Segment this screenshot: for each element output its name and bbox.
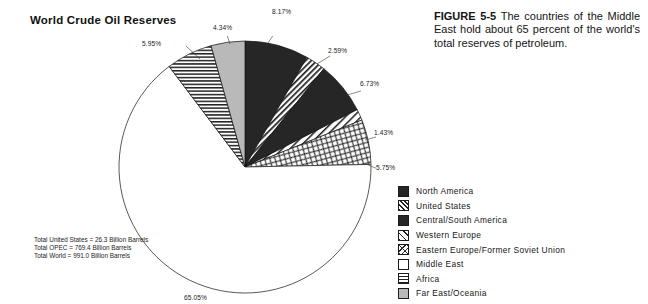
- horizontal-lines-icon: [398, 273, 409, 284]
- legend-label: Africa: [416, 274, 440, 284]
- legend-label: Western Europe: [416, 230, 481, 240]
- pie-slices: [119, 41, 371, 293]
- legend-item-middle-east: Middle East: [398, 257, 565, 272]
- wide-diagonal-hatch-icon: [398, 230, 409, 241]
- pie-label-central-south-america: 6.73%: [360, 80, 379, 87]
- page-title: World Crude Oil Reserves: [30, 14, 176, 26]
- legend-label: Far East/Oceania: [416, 288, 487, 298]
- chart-legend: North America United States Central/Sout…: [398, 184, 565, 301]
- legend-label: North America: [416, 186, 474, 196]
- figure-caption-label: FIGURE 5-5: [434, 10, 496, 22]
- legend-item-north-america: North America: [398, 184, 565, 199]
- legend-label: Eastern Europe/Former Soviet Union: [416, 245, 565, 255]
- legend-item-western-europe: Western Europe: [398, 228, 565, 243]
- pie-label-eastern-europe: 5.75%: [376, 164, 395, 171]
- pie-label-far-east-oceania: 4.34%: [213, 24, 232, 31]
- pie-chart: 8.17% 2.59% 6.73% 1.43% 5.75% 65.05% 5.9…: [114, 36, 376, 298]
- figure-caption: FIGURE 5-5 The countries of the Middle E…: [434, 10, 640, 50]
- pie-label-africa: 5.95%: [142, 40, 161, 47]
- legend-item-united-states: United States: [398, 199, 565, 214]
- footnote-line-world: Total World = 991.0 Billion Barrels: [34, 252, 148, 260]
- pie-label-middle-east: 65.05%: [184, 294, 207, 301]
- pie-label-united-states: 2.59%: [328, 47, 347, 54]
- gray-fill-icon: [398, 288, 409, 299]
- pie-chart-svg: [114, 36, 376, 298]
- solid-dark-icon: [398, 215, 409, 226]
- footnote-line-united-states: Total United States = 26.3 Billion Barre…: [34, 236, 148, 244]
- white-fill-icon: [398, 259, 409, 270]
- chart-footnote: Total United States = 26.3 Billion Barre…: [34, 236, 148, 261]
- legend-label: Central/South America: [416, 215, 507, 225]
- legend-label: United States: [416, 201, 471, 211]
- pie-label-western-europe: 1.43%: [374, 129, 393, 136]
- pie-label-north-america: 8.17%: [272, 8, 291, 15]
- dense-diagonal-hatch-icon: [398, 200, 409, 211]
- legend-label: Middle East: [416, 259, 464, 269]
- legend-item-eastern-europe: Eastern Europe/Former Soviet Union: [398, 242, 565, 257]
- solid-dark-icon: [398, 186, 409, 197]
- cross-texture-icon: [398, 244, 409, 255]
- legend-item-africa: Africa: [398, 272, 565, 287]
- legend-item-far-east-oceania: Far East/Oceania: [398, 286, 565, 301]
- legend-item-central-south-america: Central/South America: [398, 213, 565, 228]
- footnote-line-opec: Total OPEC = 769.4 Billion Barrels: [34, 244, 148, 252]
